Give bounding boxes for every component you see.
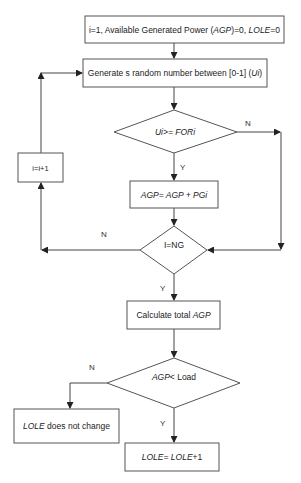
edge-load-no xyxy=(70,383,107,408)
label-load-yes: Y xyxy=(160,419,166,428)
init-text: i=1, Available Generated Power (AGP)=0, … xyxy=(89,25,280,35)
lole-inc-text-part: +1 xyxy=(193,452,203,462)
no-change-text-part: does not change xyxy=(45,421,110,431)
init-text-part: AGP xyxy=(212,25,231,35)
accumulate-text-part: AGP= AGP + PGi xyxy=(140,190,209,200)
accumulate-text: AGP= AGP + PGi xyxy=(140,190,209,200)
increment-text: i=i+1 xyxy=(32,164,48,173)
check-ng-text: I=NG xyxy=(164,240,184,250)
increment-text-part: i=i+1 xyxy=(32,164,48,173)
generate-text-part: Generate s random number between [0-1] ( xyxy=(88,68,252,78)
no-change-text-part: LOLE xyxy=(23,421,45,431)
label-ng-no: N xyxy=(101,230,107,239)
label-load-no: N xyxy=(89,363,95,372)
init-text-part: i=1, Available Generated Power ( xyxy=(89,25,214,35)
generate-text: Generate s random number between [0-1] (… xyxy=(88,68,263,78)
compare-load-text-part: < Load xyxy=(170,372,197,382)
no-change-text: LOLE does not change xyxy=(23,421,110,431)
total-text: Calculate total AGP xyxy=(136,310,211,320)
init-text-part: LOLE xyxy=(249,25,271,35)
init-text-part: )=0, xyxy=(231,25,248,35)
init-text-part: =0 xyxy=(270,25,280,35)
total-text-part: AGP xyxy=(192,310,211,320)
compare-load-text: AGP< Load xyxy=(151,372,196,382)
lole-inc-text-part: LOLE= LOLE xyxy=(142,452,193,462)
label-for-yes: Y xyxy=(180,163,186,172)
compare-load-diamond xyxy=(107,358,240,408)
label-for-no: N xyxy=(245,119,251,128)
check-ng-text-part: I=NG xyxy=(164,240,184,250)
check-ng-diamond xyxy=(140,226,207,274)
label-ng-yes: Y xyxy=(160,284,166,293)
compare-for-text-part: Ui>= FORi xyxy=(155,127,196,137)
lole-inc-text: LOLE= LOLE+1 xyxy=(142,452,203,462)
compare-load-text-part: AGP xyxy=(151,372,170,382)
generate-text-part: ) xyxy=(259,68,262,78)
compare-for-text: Ui>= FORi xyxy=(155,127,196,137)
flowchart: i=1, Available Generated Power (AGP)=0, … xyxy=(0,0,301,483)
total-text-part: Calculate total xyxy=(136,310,192,320)
